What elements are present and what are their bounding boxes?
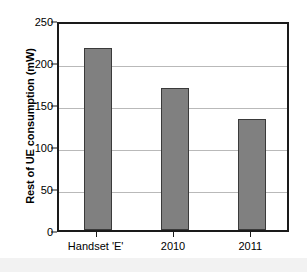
x-tick-label: 2011 <box>239 240 263 252</box>
plot-inner <box>59 24 287 230</box>
bar <box>161 88 189 230</box>
y-tick-label: 200 <box>13 58 53 70</box>
bar <box>238 119 266 230</box>
y-tick-label: 100 <box>13 142 53 154</box>
x-tick-mark <box>173 232 174 237</box>
y-axis-title: Rest of UE consumption (mW) <box>22 26 38 226</box>
x-tick-label: 2010 <box>161 240 185 252</box>
x-tick-mark <box>96 232 97 237</box>
x-tick-mark <box>250 232 251 237</box>
x-tick-label: Handset 'E' <box>68 240 124 252</box>
y-tick-label: 250 <box>13 16 53 28</box>
y-tick-label: 150 <box>13 100 53 112</box>
bar <box>84 48 112 230</box>
bottom-band <box>0 258 307 272</box>
chart-figure: Rest of UE consumption (mW) 050100150200… <box>0 0 307 272</box>
plot-area <box>57 22 289 232</box>
y-tick-label: 0 <box>13 226 53 238</box>
y-tick-label: 50 <box>13 184 53 196</box>
